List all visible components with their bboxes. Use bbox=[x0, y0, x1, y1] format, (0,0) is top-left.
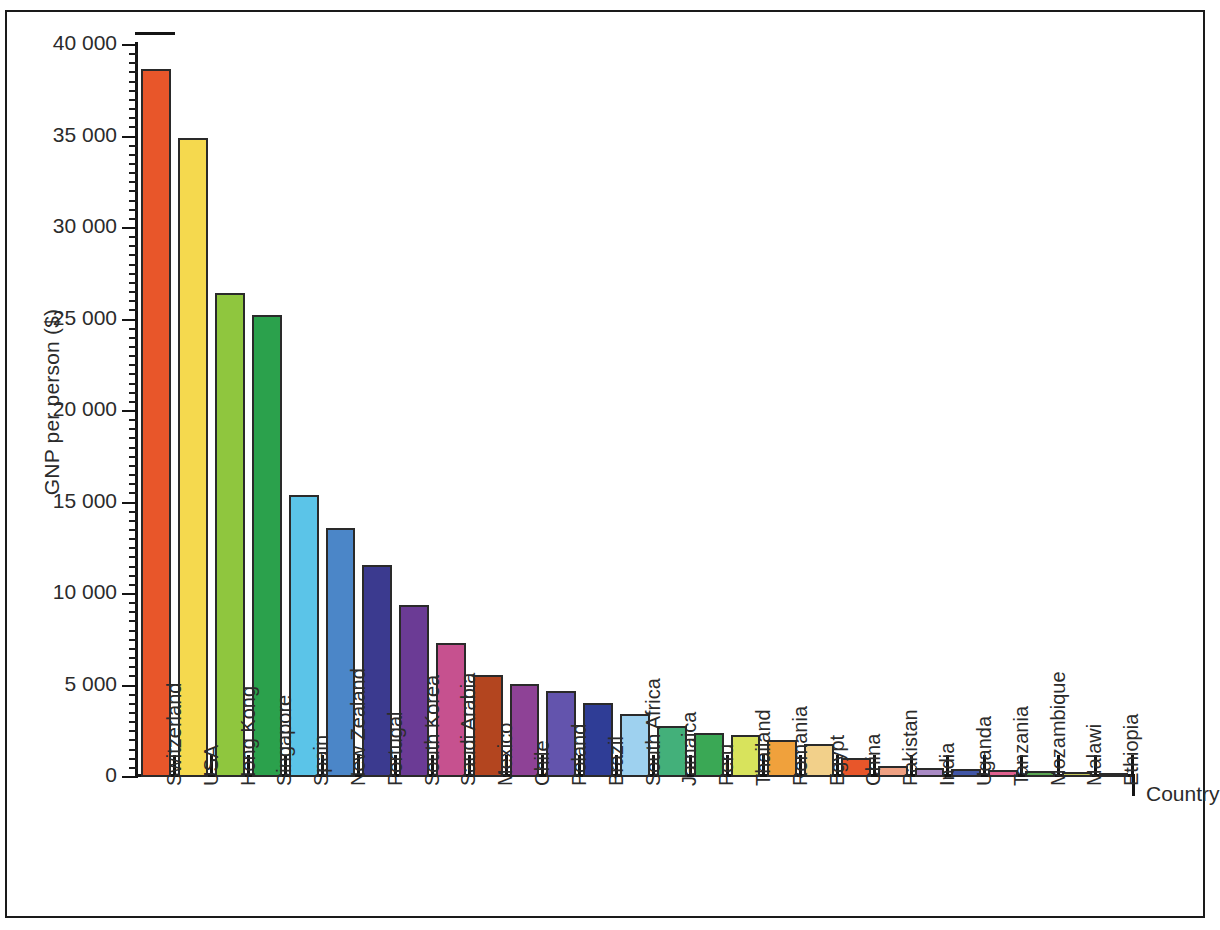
x-category-label: Saudi Arabia bbox=[457, 673, 480, 786]
x-category-label: USA bbox=[200, 745, 223, 786]
x-category-label: Chile bbox=[531, 740, 554, 786]
x-category-label: Thailand bbox=[752, 709, 775, 786]
bar-switzerland[interactable] bbox=[141, 69, 171, 777]
x-category-label: Egypt bbox=[826, 735, 849, 786]
x-category-label: India bbox=[936, 743, 959, 786]
x-category-label: Ethiopia bbox=[1120, 714, 1143, 786]
x-category-label: Uganda bbox=[973, 716, 996, 786]
bar-group bbox=[0, 0, 1218, 777]
x-category-label: Switzerland bbox=[163, 683, 186, 786]
x-category-label: Brazil bbox=[605, 736, 628, 786]
x-category-label: Portugal bbox=[384, 712, 407, 787]
x-category-label: Malawi bbox=[1083, 724, 1106, 786]
x-category-label: South Korea bbox=[421, 675, 444, 786]
bar-usa[interactable] bbox=[178, 138, 208, 777]
x-category-label: Hong Kong bbox=[237, 686, 260, 786]
x-category-label: Mozambique bbox=[1047, 671, 1070, 786]
x-category-label: Tanzania bbox=[1010, 706, 1033, 786]
x-category-label: Singapore bbox=[273, 695, 296, 786]
x-category-label: New Zealand bbox=[347, 668, 370, 786]
x-category-label: Pakistan bbox=[899, 709, 922, 786]
x-category-label: Romania bbox=[789, 706, 812, 786]
x-category-label: Spain bbox=[310, 735, 333, 786]
x-category-label: Poland bbox=[568, 724, 591, 786]
x-category-label: South Africa bbox=[642, 678, 665, 786]
x-category-label: Mexico bbox=[494, 723, 517, 786]
x-category-label: China bbox=[862, 734, 885, 786]
x-axis-title: Country bbox=[1146, 782, 1220, 806]
x-category-label: Jamaica bbox=[678, 712, 701, 786]
x-category-label: Peru bbox=[715, 744, 738, 786]
